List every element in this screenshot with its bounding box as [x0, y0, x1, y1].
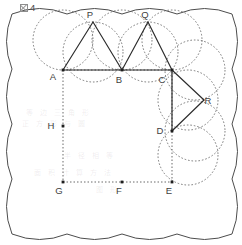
point-label-h: H	[48, 120, 55, 131]
point-label-p: P	[87, 9, 93, 20]
point-labels-group: ABCDEFGHPQR	[48, 9, 212, 196]
segment-R-D	[172, 100, 204, 131]
vertex-marker-h	[62, 125, 65, 128]
point-label-d: D	[157, 125, 164, 136]
tofu-box-glyph-icon	[20, 4, 28, 12]
point-label-q: Q	[141, 9, 148, 20]
geometry-svg-canvas: ABCDEFGHPQR	[0, 0, 242, 245]
circle-at-D-right	[165, 101, 225, 161]
segment-C-R	[172, 70, 204, 100]
figure-number: 4	[30, 3, 35, 13]
point-label-f: F	[116, 185, 122, 196]
vertex-marker-e	[171, 181, 174, 184]
vertex-marker-a	[62, 69, 65, 72]
solid-segments-group	[63, 22, 204, 131]
circle-at-C-top	[142, 10, 202, 70]
point-label-r: R	[205, 95, 212, 106]
vertex-marker-g	[62, 181, 65, 184]
segment-Q-C	[148, 22, 172, 70]
vertex-marker-f	[121, 181, 124, 184]
circle-at-Q-left	[118, 22, 178, 82]
point-label-g: G	[55, 185, 62, 196]
point-label-e: E	[166, 185, 172, 196]
segment-P-B	[93, 22, 122, 70]
segment-B-Q	[122, 22, 148, 70]
circle-at-D-lower	[158, 125, 218, 185]
geometry-figure-container: 等 边 三 角 形正 方 形 与 圆半 径 相 等面 积 计 算 方 法图 形 …	[0, 0, 242, 245]
dotted-circles-group	[33, 10, 225, 185]
figure-caption: 4	[20, 3, 35, 13]
vertex-marker-d	[171, 130, 174, 133]
segment-A-P	[63, 22, 93, 70]
vertex-marker-b	[121, 69, 124, 72]
point-label-a: A	[50, 71, 57, 82]
vertex-marker-c	[171, 69, 174, 72]
point-label-c: C	[159, 74, 166, 85]
circle-at-A	[33, 10, 93, 70]
point-label-b: B	[116, 74, 122, 85]
circle-at-P-left	[63, 22, 123, 82]
